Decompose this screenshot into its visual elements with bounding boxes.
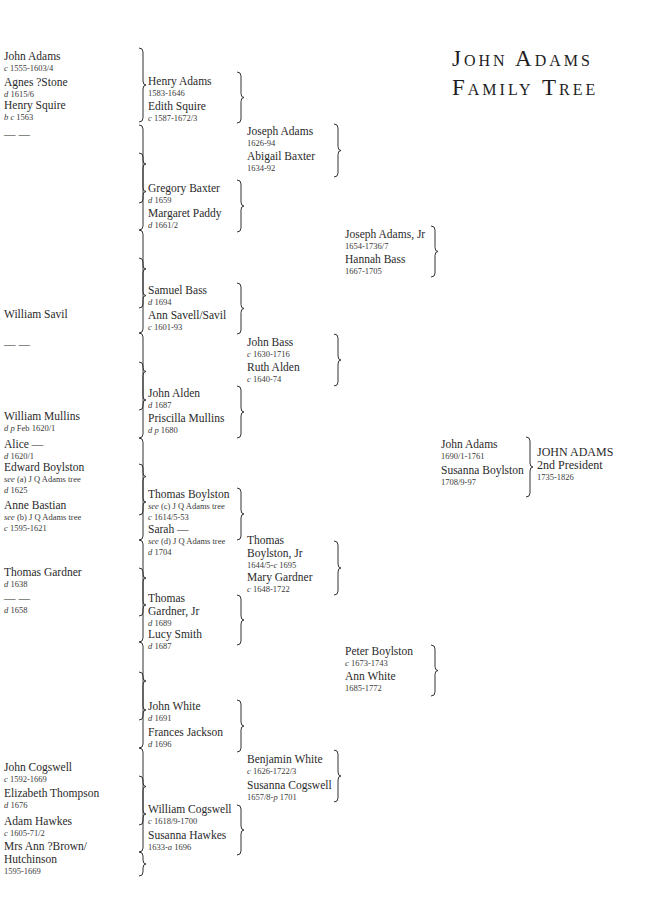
person-dates: 1583-1646 bbox=[148, 88, 212, 99]
person-name: Adam Hawkes bbox=[4, 815, 72, 828]
person-name: Ruth Alden bbox=[247, 361, 300, 374]
person-dates: 1690/1-1761 bbox=[441, 451, 498, 462]
ancestor-gen5: John Cogswellc 1592-1669 bbox=[4, 761, 72, 788]
person-dates: d 1704 bbox=[148, 547, 225, 558]
person-dates: 1657/8-p 1701 bbox=[247, 792, 332, 803]
person-dates: 1667-1705 bbox=[345, 266, 405, 277]
ancestor-gen4: Thomas Boylstonsee (c) J Q Adams treec 1… bbox=[148, 488, 229, 526]
bracket-connector bbox=[333, 124, 343, 177]
person-name: John Adams bbox=[441, 438, 498, 451]
bracket-connector bbox=[138, 362, 148, 438]
ancestor-gen5: Thomas Gardnerd 1638 bbox=[4, 566, 82, 593]
person-name: William Cogswell bbox=[148, 803, 232, 816]
bracket-connector bbox=[236, 72, 246, 123]
bracket-connector bbox=[430, 226, 440, 277]
ancestor-gen4: Henry Adams1583-1646 bbox=[148, 75, 212, 102]
person-note: see (b) J Q Adams tree bbox=[4, 512, 81, 523]
bracket-connector bbox=[138, 258, 148, 333]
person-name: Thomas Boylston bbox=[148, 488, 229, 501]
person-dates: d p Feb 1620/1 bbox=[4, 423, 80, 434]
person-dates: d 1687 bbox=[148, 400, 200, 411]
bracket-connector bbox=[430, 645, 440, 696]
person-dates: d 1638 bbox=[4, 579, 82, 590]
bracket-connector bbox=[236, 283, 246, 334]
ancestor-gen4: John Whited 1691 bbox=[148, 700, 201, 727]
person-name: Priscilla Mullins bbox=[148, 412, 224, 425]
ancestor-gen5: Edward Boylstonsee (a) J Q Adams treed 1… bbox=[4, 461, 84, 499]
person-dates: 1708/9-97 bbox=[441, 477, 524, 488]
ancestor-gen3: ThomasBoylston, Jr1644/5-c 1695 bbox=[247, 534, 303, 574]
person-dates: c 1618/9-1700 bbox=[148, 816, 232, 827]
bracket-connector bbox=[236, 386, 246, 438]
person-name: Benjamin White bbox=[247, 753, 322, 766]
title-line-2: Family Tree bbox=[452, 73, 598, 102]
ancestor-gen2: Peter Boylstonc 1673-1743 bbox=[345, 645, 413, 672]
ancestor-gen4: Margaret Paddyd 1661/2 bbox=[148, 207, 222, 234]
person-name: William Savil bbox=[4, 308, 68, 321]
bracket-connector bbox=[138, 48, 148, 122]
bracket-connector bbox=[138, 568, 148, 642]
person-name: Thomas Gardner bbox=[4, 566, 82, 579]
bracket-connector bbox=[138, 776, 148, 852]
ancestor-gen2: Joseph Adams, Jr1654-1736/7 bbox=[345, 228, 425, 255]
person-dates: b c 1563 bbox=[4, 112, 66, 123]
person-note: see (d) J Q Adams tree bbox=[148, 536, 225, 547]
ancestor-gen2: Ann White1685-1772 bbox=[345, 670, 396, 697]
ancestor-gen5: Adam Hawkesc 1605-71/2 bbox=[4, 815, 72, 842]
bracket-connector bbox=[236, 180, 246, 232]
ancestor-gen5: John Adamsc 1555-1603/4 bbox=[4, 50, 61, 77]
person-dates: c 1595-1621 bbox=[4, 523, 81, 534]
bracket-connector bbox=[236, 805, 246, 855]
parent: Susanna Boylston1708/9-97 bbox=[441, 464, 524, 491]
person-name: Margaret Paddy bbox=[148, 207, 222, 220]
ancestor-gen5: William Mullinsd p Feb 1620/1 bbox=[4, 410, 80, 437]
ancestor-gen4: Samuel Bassd 1694 bbox=[148, 284, 207, 311]
person-name: Lucy Smith bbox=[148, 628, 202, 641]
parent: John Adams1690/1-1761 bbox=[441, 438, 498, 465]
person-name: Mrs Ann ?Brown/Hutchinson bbox=[4, 840, 87, 866]
person-note: see (c) J Q Adams tree bbox=[148, 501, 229, 512]
person-dates: d 1658 bbox=[4, 605, 30, 616]
person-dates: c 1587-1672/3 bbox=[148, 113, 206, 124]
ancestor-gen5: William Savil bbox=[4, 308, 68, 321]
ancestor-gen5: — — bbox=[4, 128, 30, 141]
ancestor-gen4: Frances Jacksond 1696 bbox=[148, 726, 223, 753]
person-dates: d 1694 bbox=[148, 297, 207, 308]
ancestor-gen5: Henry Squireb c 1563 bbox=[4, 99, 66, 126]
person-dates: 1626-94 bbox=[247, 138, 313, 149]
ancestor-gen4: Priscilla Mullinsd p 1680 bbox=[148, 412, 224, 439]
person-dates: 1634-92 bbox=[247, 163, 315, 174]
person-dates: d 1696 bbox=[148, 739, 223, 750]
person-dates: 1654-1736/7 bbox=[345, 241, 425, 252]
person-name: William Mullins bbox=[4, 410, 80, 423]
person-name: Susanna Hawkes bbox=[148, 829, 226, 842]
person-note: see (a) J Q Adams tree bbox=[4, 474, 84, 485]
subject-person: JOHN ADAMS2nd President1735-1826 bbox=[537, 446, 613, 486]
person-name: John White bbox=[148, 700, 201, 713]
ancestor-gen4: Ann Savell/Savilc 1601-93 bbox=[148, 309, 226, 336]
ancestor-gen4: Lucy Smithd 1687 bbox=[148, 628, 202, 655]
person-dates: c 1640-74 bbox=[247, 374, 300, 385]
bracket-connector bbox=[525, 437, 535, 497]
person-name: John Bass bbox=[247, 336, 293, 349]
person-name: Peter Boylston bbox=[345, 645, 413, 658]
person-dates: 1685-1772 bbox=[345, 683, 396, 694]
person-dates: d p 1680 bbox=[148, 425, 224, 436]
ancestor-gen4: Gregory Baxterd 1659 bbox=[148, 182, 220, 209]
ancestor-gen3: Benjamin Whitec 1626-1722/3 bbox=[247, 753, 322, 780]
person-dates: c 1614/5-53 bbox=[148, 512, 229, 523]
person-dates: 1595-1669 bbox=[4, 866, 87, 877]
bracket-connector bbox=[236, 700, 246, 752]
person-name: John Alden bbox=[148, 387, 200, 400]
ancestor-gen2: Hannah Bass1667-1705 bbox=[345, 253, 405, 280]
person-name: Frances Jackson bbox=[148, 726, 223, 739]
bracket-connector bbox=[333, 334, 343, 386]
bracket-connector bbox=[236, 488, 246, 540]
person-dates: d 1659 bbox=[148, 195, 220, 206]
ancestor-gen5: — — bbox=[4, 338, 30, 351]
person-name: Joseph Adams bbox=[247, 125, 313, 138]
subject-role: 2nd President bbox=[537, 459, 613, 472]
person-dates: d 1661/2 bbox=[148, 220, 222, 231]
person-dates: c 1601-93 bbox=[148, 322, 226, 333]
person-name: Alice — bbox=[4, 438, 43, 451]
